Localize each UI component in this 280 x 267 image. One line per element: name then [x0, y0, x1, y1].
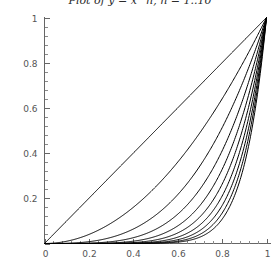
x-tick-label: 0.8: [215, 249, 230, 259]
x-axis-tick-labels: 00.20.40.60.81: [43, 249, 271, 259]
x-tick-label: 0: [43, 249, 49, 259]
y-tick-label: 1: [32, 14, 38, 24]
y-axis-tick-labels: 0.20.40.60.81: [23, 14, 38, 204]
chart-container: Plot of y = x^n, n = 1..10 00.20.40.60.8…: [0, 0, 280, 267]
plot-area: 00.20.40.60.81 0.20.40.60.81: [0, 0, 280, 267]
curve-series-group: [45, 18, 267, 244]
y-tick-label: 0.2: [23, 194, 37, 204]
curve-y-x-1: [45, 18, 267, 244]
x-tick-label: 1: [265, 249, 271, 259]
x-tick-label: 0.4: [126, 249, 141, 259]
y-tick-label: 0.8: [23, 59, 38, 69]
y-tick-label: 0.6: [23, 104, 38, 114]
x-tick-label: 0.6: [171, 249, 186, 259]
x-tick-label: 0.2: [82, 249, 96, 259]
y-tick-label: 0.4: [23, 149, 38, 159]
y-axis-ticks: [45, 19, 50, 245]
